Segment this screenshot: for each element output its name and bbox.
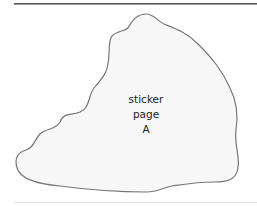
sticker-label-line-1: sticker	[116, 92, 176, 107]
sticker-label: sticker page A	[116, 92, 176, 137]
sticker-label-line-2: page	[116, 107, 176, 122]
bottom-divider	[14, 202, 257, 203]
sticker-label-line-3: A	[116, 122, 176, 137]
